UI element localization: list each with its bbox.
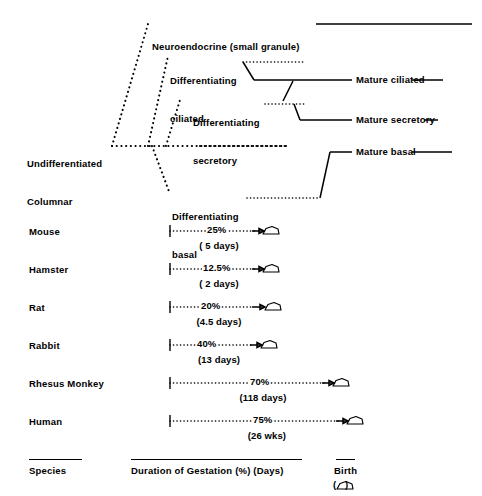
percent-label-rabbit: 40%: [196, 338, 217, 349]
days-label-human: (26 wks): [228, 430, 306, 441]
species-label-hamster: Hamster: [29, 264, 68, 275]
branch-differentiating-basal: [152, 146, 170, 194]
label-differentiating-ciliated-line1: Differentiating: [170, 75, 237, 88]
header-species: Species: [29, 465, 66, 476]
header-duration-of-gestation: Duration of Gestation (%) (Days): [131, 465, 284, 476]
label-undifferentiated-columnar-line1: Undifferentiated: [27, 158, 102, 171]
birth-symbol-hamster: [263, 265, 279, 273]
label-differentiating-secretory: Differentiating secretory: [193, 92, 260, 192]
percent-label-mouse: 25%: [206, 224, 227, 235]
days-label-hamster: ( 2 days): [186, 278, 252, 289]
species-label-rat: Rat: [29, 302, 45, 313]
header-birth: Birth: [334, 465, 357, 476]
birth-symbol-rabbit: [261, 341, 277, 349]
days-label-mouse: ( 5 days): [186, 240, 252, 251]
label-undifferentiated-columnar: Undifferentiated Columnar: [27, 133, 102, 233]
days-label-rat: (4.5 days): [186, 316, 252, 327]
percent-label-hamster: 12.5%: [202, 262, 231, 273]
birth-symbol-rhesus: [333, 379, 349, 387]
label-differentiating-secretory-line2: secretory: [193, 155, 260, 168]
label-mature-basal: Mature basal: [356, 146, 416, 158]
label-mature-secretory: Mature secretory: [356, 114, 435, 126]
days-label-rhesus-monkey: (118 days): [224, 392, 302, 403]
label-differentiating-basal-line1: Differentiating: [172, 211, 239, 224]
connector-secretory-up-to-ciliated: [283, 81, 293, 101]
label-mature-ciliated: Mature ciliated: [356, 74, 425, 86]
connector-secretory-down: [294, 104, 300, 120]
species-label-human: Human: [29, 416, 62, 427]
birth-symbol-human: [347, 417, 363, 425]
species-label-rabbit: Rabbit: [29, 340, 60, 351]
birth-symbol-rat: [265, 303, 281, 311]
label-differentiating-secretory-line1: Differentiating: [193, 117, 260, 130]
header-birth-symbol-parens: ( ): [333, 479, 348, 490]
branch-neuroendocrine: [112, 24, 148, 146]
figure-canvas: Undifferentiated Columnar Neuroendocrine…: [0, 0, 482, 496]
species-label-rhesus-monkey: Rhesus Monkey: [29, 378, 104, 389]
label-undifferentiated-columnar-line2: Columnar: [27, 196, 102, 209]
rule-species: [29, 459, 82, 460]
days-label-rabbit: (13 days): [186, 354, 252, 365]
species-label-mouse: Mouse: [29, 226, 60, 237]
birth-symbol-mouse: [263, 227, 279, 235]
percent-label-human: 75%: [252, 414, 273, 425]
percent-label-rat: 20%: [200, 300, 221, 311]
rule-duration: [131, 459, 302, 460]
percent-label-rhesus-monkey: 70%: [249, 376, 270, 387]
connector-basal-up: [320, 152, 330, 198]
rule-birth: [336, 459, 355, 460]
